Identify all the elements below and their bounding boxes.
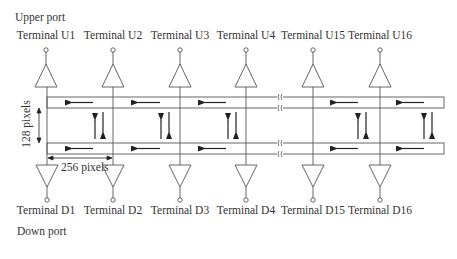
panel-diagram	[0, 0, 457, 259]
vertical-transfer-arrows	[95, 112, 432, 139]
upper-buffers	[35, 48, 391, 87]
upper-shift-band	[47, 97, 444, 108]
dimension-arrows	[37, 108, 112, 160]
shift-left-arrows	[72, 103, 424, 149]
lower-shift-band	[47, 143, 444, 154]
break-marks	[277, 94, 283, 157]
lower-buffers	[36, 165, 391, 202]
